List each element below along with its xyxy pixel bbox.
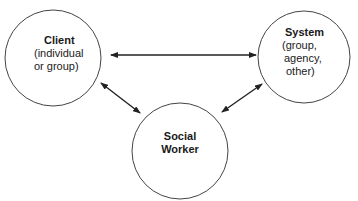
system-socialworker-arrow [222, 84, 262, 112]
client-socialworker-arrow [101, 83, 140, 113]
client-subtitle-line-1: (individual [34, 47, 84, 60]
system-subtitle-line-3: other) [282, 65, 324, 78]
system-subtitle-line-1: (group, [282, 39, 324, 52]
social-worker-title-line-2: Worker [150, 143, 210, 156]
client-subtitle-line-2: or group) [34, 60, 84, 73]
system-subtitle-line-2: agency, [282, 52, 324, 65]
system-title: System [282, 26, 324, 39]
client-title: Client [34, 34, 84, 47]
client-node-label: Client (individual or group) [34, 34, 84, 73]
social-worker-title-line-1: Social [150, 130, 210, 143]
system-node-label: System (group, agency, other) [282, 26, 324, 78]
social-worker-node-label: Social Worker [150, 130, 210, 156]
